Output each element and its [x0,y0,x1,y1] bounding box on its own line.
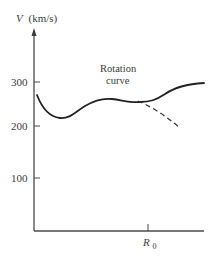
rotation-curve-solid [37,83,204,118]
annotation-line2: curve [106,75,130,86]
x-tick-label-r0: R 0 [142,236,156,251]
keplerian-curve-dashed [138,101,180,128]
y-tick-label-300: 300 [11,76,28,88]
x-tick-label-sub: 0 [152,242,156,251]
y-tick-label-100: 100 [11,172,28,184]
rotation-curve-chart: V (km/s) 300 200 100 R 0 Rotation curve [0,0,218,258]
y-axis-label: V (km/s) [16,12,58,25]
y-axis-arrow-icon [32,28,37,36]
annotation-line1: Rotation [100,63,137,74]
y-axis-unit: (km/s) [28,12,57,25]
y-axis-variable: V [16,12,24,24]
y-tick-label-200: 200 [11,120,28,132]
x-tick-label-var: R [142,236,150,248]
